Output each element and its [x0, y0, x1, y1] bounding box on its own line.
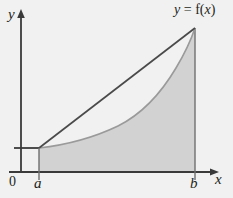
figure-canvas: y x 0 a b y = f(x) — [0, 0, 233, 198]
area-under-curve-fill — [39, 28, 195, 172]
curve-equation-label: y = f(x) — [174, 3, 215, 17]
plot-svg — [0, 0, 233, 198]
origin-label: 0 — [9, 175, 16, 189]
curve-label-close-paren: ) — [211, 2, 216, 17]
x-tick-label-a: a — [34, 176, 42, 191]
x-axis-label: x — [215, 172, 222, 187]
y-axis-arrowhead — [17, 9, 25, 18]
y-axis-label: y — [8, 7, 15, 22]
x-tick-label-b: b — [190, 176, 198, 191]
curve-label-equals: = — [180, 2, 195, 17]
